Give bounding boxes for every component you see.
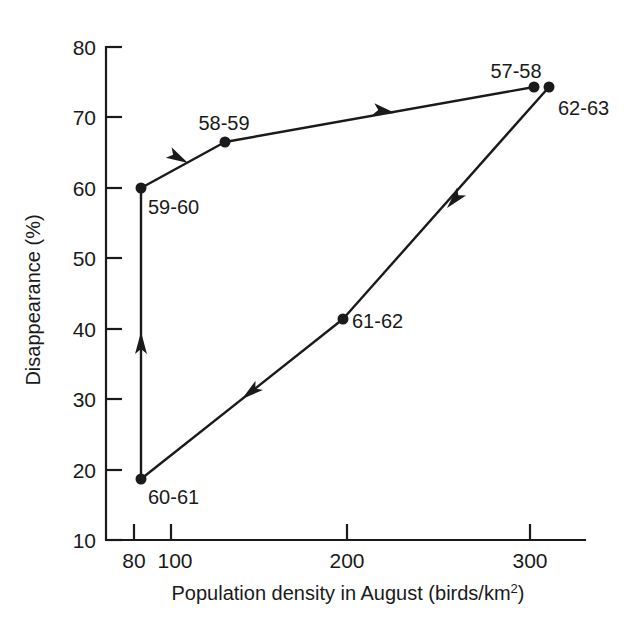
data-point-6162[interactable]	[338, 314, 349, 325]
segment-5859-to-5960	[141, 142, 225, 188]
x-axis-title-main: Population density in August (birds/km	[172, 582, 511, 604]
segment-6061-to-6162	[141, 319, 343, 479]
data-point-5758[interactable]	[529, 82, 540, 93]
arrow-5859-to-5960	[166, 147, 191, 168]
data-point-6263[interactable]	[544, 82, 555, 93]
y-tick-label-70: 70	[73, 106, 96, 129]
data-points-group	[136, 82, 555, 485]
x-axis-title-tail: )	[518, 582, 525, 604]
data-point-5960[interactable]	[136, 183, 147, 194]
y-axis-tick-labels: 80 70 60 50 40 30 20 10	[73, 36, 96, 552]
chart-figure: 80 70 60 50 40 30 20 10 80 100 200	[0, 0, 641, 629]
x-axis-tick-labels: 80 100 200 300	[122, 549, 547, 572]
y-tick-label-20: 20	[73, 459, 96, 482]
data-point-5859[interactable]	[220, 137, 231, 148]
x-axis-title-superscript: 2	[511, 581, 518, 596]
y-tick-label-50: 50	[73, 247, 96, 270]
x-tick-label-200: 200	[329, 549, 364, 572]
data-point-6061[interactable]	[136, 474, 147, 485]
arrow-6162-to-6263	[443, 188, 467, 212]
data-label-6061: 60-61	[148, 486, 199, 508]
x-tick-label-100: 100	[157, 549, 192, 572]
data-label-6162: 61-62	[352, 310, 403, 332]
y-axis-title: Disappearance (%)	[22, 214, 44, 385]
x-tick-label-300: 300	[512, 549, 547, 572]
data-label-5960: 59-60	[148, 196, 199, 218]
segment-6162-to-6263	[343, 87, 549, 319]
data-point-labels-group: 57-58 58-59 59-60 60-61 61-62 62-63	[148, 60, 609, 508]
direction-arrows-group	[135, 103, 466, 403]
y-tick-label-40: 40	[73, 318, 96, 341]
y-tick-label-80: 80	[73, 36, 96, 59]
y-tick-label-60: 60	[73, 177, 96, 200]
y-tick-label-10: 10	[73, 529, 96, 552]
x-tick-label-80: 80	[122, 549, 145, 572]
y-axis-ticks	[106, 47, 122, 540]
data-label-5859: 58-59	[198, 112, 249, 134]
data-trace-group	[141, 87, 549, 479]
line-chart-svg: 80 70 60 50 40 30 20 10 80 100 200	[0, 0, 641, 629]
data-label-5758: 57-58	[490, 60, 541, 82]
data-label-6263: 62-63	[558, 97, 609, 119]
x-axis-ticks	[134, 524, 530, 540]
y-tick-label-30: 30	[73, 388, 96, 411]
segment-5758-to-5859	[225, 87, 534, 142]
x-axis-title: Population density in August (birds/km2)	[172, 581, 525, 604]
